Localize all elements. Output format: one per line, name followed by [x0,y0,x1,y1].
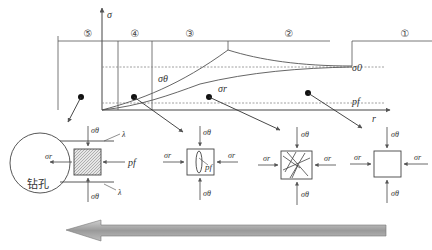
direction-arrow [66,220,386,241]
zone-1-label: ① [401,28,410,39]
borehole-pf: pf [127,157,137,168]
zone-2-label: ② [285,28,294,39]
borehole-sigma-r: σr [45,152,53,161]
sigma-r-curve-label: σr [218,83,227,94]
x-axis-label: r [372,113,376,124]
sigma-theta-curve-label: σθ [158,73,168,84]
lambda-top: λ [121,130,126,139]
zone-dimension-line [58,36,432,110]
zone-3-label: ③ [186,28,195,39]
pointer-zone-5 [68,94,84,122]
network-sigma-r-right: σr [324,154,332,163]
zone-4-label: ④ [131,28,140,39]
intact-element [350,127,428,203]
borehole-sigma-theta-bottom: σθ [91,192,99,201]
intact-sigma-r-right: σr [414,153,422,162]
intact-sigma-r-left: σr [354,153,362,162]
fracture-sigma-theta-top: σθ [203,128,211,137]
single-fracture-element [163,126,238,200]
network-sigma-theta-bottom: σθ [301,190,309,199]
sigma-r-curve [102,67,352,110]
diagram-canvas: ⑤ ④ ③ ② ① σθ σr σ0 pf σ r [0,0,432,250]
pointer-zone-4 [131,94,183,132]
zone-5-label: ⑤ [84,28,93,39]
network-sigma-theta-top: σθ [301,130,309,139]
pore-pressure-label: pf [351,96,361,107]
borehole-sigma-theta-top: σθ [91,126,99,135]
intact-sigma-theta-top: σθ [391,130,399,139]
intact-sigma-theta-bottom: σθ [391,189,399,198]
damaged-rock-block [74,149,101,175]
fracture-sigma-r-right: σr [228,151,236,160]
fracture-network-element [258,127,336,205]
far-field-label: σ0 [352,62,362,73]
y-axis-label: σ [107,9,113,20]
borehole-label: 钻孔 [27,177,49,191]
pointer-zone-3 [206,94,280,130]
lambda-bottom: λ [117,188,122,197]
fracture-sigma-theta-bottom: σθ [203,189,211,198]
fracture-sigma-r-left: σr [164,151,172,160]
network-sigma-r-left: σr [263,154,271,163]
